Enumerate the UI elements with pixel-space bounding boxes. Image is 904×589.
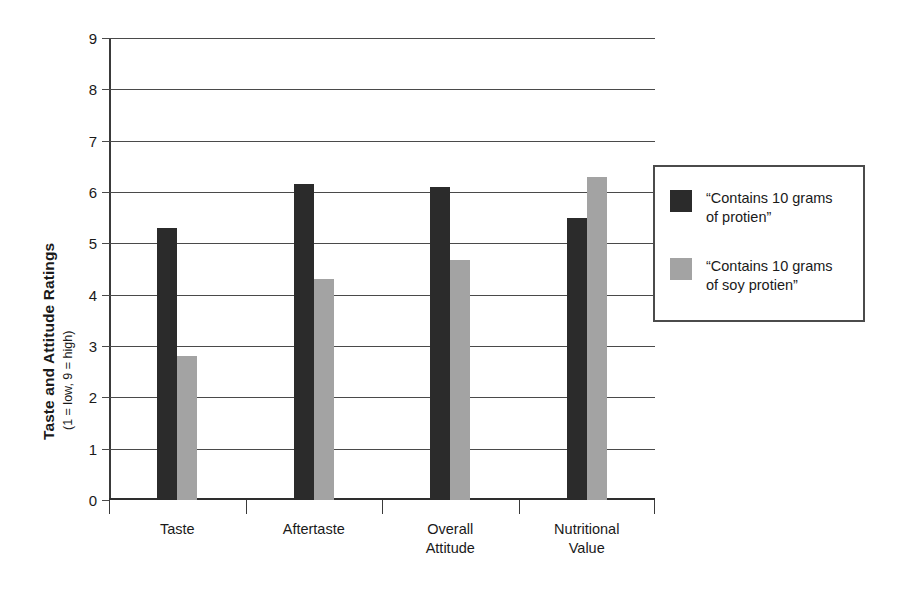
bar-1-0 (177, 356, 197, 500)
y-tick-label-8: 8 (89, 82, 97, 97)
x-tick-mark-4 (654, 500, 655, 514)
bar-0-2 (430, 187, 450, 500)
y-tick-mark-5 (102, 243, 109, 244)
y-tick-mark-8 (102, 89, 109, 90)
legend-item-1: “Contains 10 grams of soy protien” (670, 257, 833, 296)
y-axis-title: Taste and Attitude Ratings (40, 243, 58, 440)
x-axis: TasteAftertasteOverall AttitudeNutrition… (109, 500, 655, 588)
plot-area: 0123456789 (109, 38, 655, 500)
y-tick-mark-2 (102, 397, 109, 398)
x-category-label-0: Taste (160, 520, 195, 539)
y-tick-mark-4 (102, 295, 109, 296)
y-tick-mark-7 (102, 141, 109, 142)
y-axis-title-group: Taste and Attitude Ratings (1 = low, 9 =… (0, 0, 72, 589)
bar-0-1 (294, 184, 314, 500)
bar-0-0 (157, 228, 177, 500)
bar-1-3 (587, 177, 607, 500)
y-tick-label-6: 6 (89, 185, 97, 200)
y-axis-subtitle: (1 = low, 9 = high) (61, 331, 75, 430)
y-tick-label-9: 9 (89, 31, 97, 46)
bar-1-1 (314, 279, 334, 500)
x-tick-mark-1 (246, 500, 247, 514)
bar-1-2 (450, 260, 470, 500)
legend-swatch-icon-0 (670, 190, 692, 212)
y-tick-label-0: 0 (89, 493, 97, 508)
gridline-7 (109, 141, 655, 142)
x-category-label-1: Aftertaste (283, 520, 345, 539)
x-category-label-2: Overall Attitude (426, 520, 475, 557)
y-tick-mark-1 (102, 449, 109, 450)
y-tick-mark-9 (102, 38, 109, 39)
y-tick-label-4: 4 (89, 287, 97, 302)
x-category-label-3: Nutritional Value (554, 520, 619, 557)
bar-0-3 (567, 218, 587, 500)
bar-chart: Taste and Attitude Ratings (1 = low, 9 =… (0, 0, 904, 589)
y-tick-label-5: 5 (89, 236, 97, 251)
legend-swatch-icon-1 (670, 258, 692, 280)
y-tick-label-3: 3 (89, 339, 97, 354)
chart-legend: “Contains 10 grams of protien” “Contains… (653, 165, 865, 322)
y-axis-line (109, 38, 111, 500)
y-tick-label-2: 2 (89, 390, 97, 405)
y-tick-mark-3 (102, 346, 109, 347)
gridline-8 (109, 89, 655, 90)
gridline-9 (109, 38, 655, 39)
x-tick-mark-2 (382, 500, 383, 514)
legend-label-0: “Contains 10 grams of protien” (706, 189, 833, 228)
y-tick-label-1: 1 (89, 441, 97, 456)
x-tick-mark-0 (109, 500, 110, 514)
y-tick-mark-6 (102, 192, 109, 193)
gridline-6 (109, 192, 655, 193)
x-tick-mark-3 (519, 500, 520, 514)
legend-label-1: “Contains 10 grams of soy protien” (706, 257, 833, 296)
y-tick-label-7: 7 (89, 133, 97, 148)
legend-item-0: “Contains 10 grams of protien” (670, 189, 833, 228)
y-tick-mark-0 (102, 500, 109, 501)
